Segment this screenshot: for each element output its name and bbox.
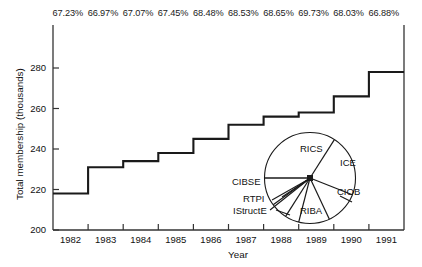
percentage-label: 66.88%	[368, 8, 399, 18]
percentage-label: 66.97%	[88, 8, 119, 18]
pie-leader-line	[272, 179, 309, 200]
x-tick-marks	[88, 224, 369, 230]
y-tick-marks	[53, 68, 59, 230]
y-tick-label: 200	[20, 224, 46, 235]
percentage-label: 67.23%	[53, 8, 84, 18]
pie-label-istructe: IStructE	[233, 205, 267, 216]
pie-label-riba: RIBA	[300, 205, 322, 216]
percentage-label: 68.53%	[228, 8, 259, 18]
chart-canvas	[0, 0, 422, 267]
percentage-label: 69.73%	[298, 8, 329, 18]
chart-figure: 67.23%66.97%67.07%67.45%68.48%68.53%68.6…	[0, 0, 422, 267]
pie-label-ice: ICE	[340, 157, 356, 168]
x-tick-label: 1983	[86, 234, 126, 245]
x-tick-label: 1985	[156, 234, 196, 245]
pie-label-ciob: CIOB	[337, 186, 360, 197]
x-axis-title: Year	[178, 249, 298, 260]
x-tick-label: 1984	[121, 234, 161, 245]
pie-label-rics: RICS	[300, 143, 323, 154]
x-tick-label: 1982	[51, 234, 91, 245]
percentage-label: 68.48%	[193, 8, 224, 18]
x-tick-label: 1991	[366, 234, 406, 245]
x-tick-label: 1989	[296, 234, 336, 245]
step-line-series	[53, 72, 404, 194]
percentage-label: 68.65%	[263, 8, 294, 18]
percentage-label: 67.07%	[123, 8, 154, 18]
x-tick-label: 1987	[226, 234, 266, 245]
x-tick-label: 1988	[261, 234, 301, 245]
percentage-label: 67.45%	[158, 8, 189, 18]
x-tick-label: 1990	[331, 234, 371, 245]
y-axis-title: Total membership (thousands)	[14, 68, 25, 200]
percentage-label: 68.03%	[333, 8, 364, 18]
pie-label-rtpi: RTPI	[243, 193, 264, 204]
x-tick-label: 1986	[191, 234, 231, 245]
pie-label-cibse: CIBSE	[232, 176, 261, 187]
